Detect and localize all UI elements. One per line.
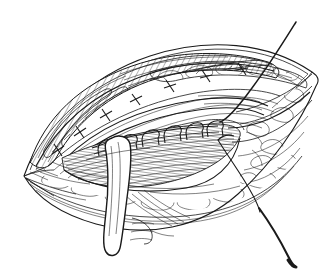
illustration-canvas: [0, 0, 336, 280]
surgical-illustration-figure: [0, 0, 336, 280]
